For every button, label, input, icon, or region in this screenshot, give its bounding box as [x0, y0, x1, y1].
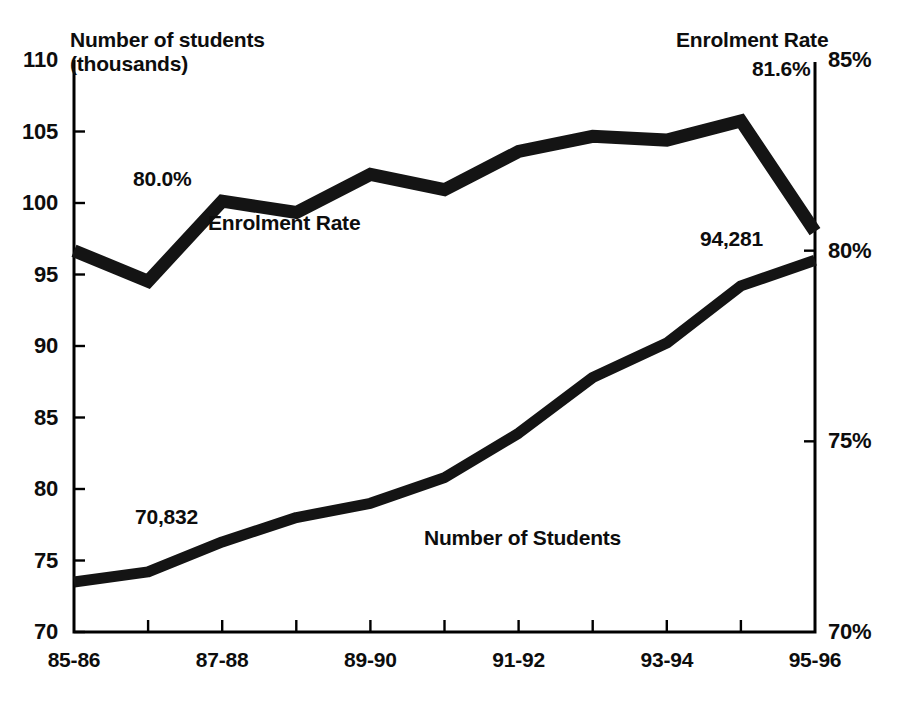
y-axis-left-ticks [74, 132, 85, 633]
chart-figure: Number of students (thousands) Enrolment… [0, 0, 900, 701]
y-axis-right-tick-label: 85% [828, 47, 871, 73]
y-axis-left-tick-label: 110 [0, 47, 58, 73]
y-axis-left-tick-label: 85 [0, 405, 58, 431]
x-axis-tick-label: 89-90 [310, 648, 430, 672]
y-axis-left-title: Number of students (thousands) [70, 28, 265, 76]
y-axis-right-tick-label: 70% [828, 619, 871, 645]
y-axis-left-title-line1: Number of students [70, 28, 265, 52]
x-axis-tick-label: 95-96 [755, 648, 875, 672]
y-axis-left-tick-label: 80 [0, 476, 58, 502]
series-line-enrolment-rate [74, 121, 815, 281]
y-axis-left-tick-label: 105 [0, 119, 58, 145]
x-axis-tick-label: 93-94 [607, 648, 727, 672]
x-axis-ticks [148, 620, 741, 632]
y-axis-left-title-line2: (thousands) [70, 52, 265, 76]
y-axis-left-tick-label: 70 [0, 619, 58, 645]
y-axis-right-title: Enrolment Rate [676, 28, 828, 52]
y-axis-left-tick-label: 100 [0, 190, 58, 216]
x-axis-tick-label: 85-86 [14, 648, 134, 672]
annotation-enrolment-end: 81.6% [752, 57, 811, 81]
series-label-enrolment-rate: Enrolment Rate [208, 211, 360, 235]
y-axis-left-tick-label: 90 [0, 333, 58, 359]
chart-canvas [0, 0, 900, 701]
annotation-students-end: 94,281 [700, 227, 763, 251]
annotation-enrolment-start: 80.0% [133, 167, 192, 191]
annotation-students-start: 70,832 [135, 505, 198, 529]
y-axis-left-tick-label: 95 [0, 262, 58, 288]
y-axis-right-tick-label: 80% [828, 238, 871, 264]
y-axis-right-ticks [804, 251, 815, 442]
x-axis-tick-label: 91-92 [459, 648, 579, 672]
x-axis-tick-label: 87-88 [162, 648, 282, 672]
y-axis-left-tick-label: 75 [0, 548, 58, 574]
y-axis-right-tick-label: 75% [828, 428, 871, 454]
series-label-number-of-students: Number of Students [424, 526, 621, 550]
